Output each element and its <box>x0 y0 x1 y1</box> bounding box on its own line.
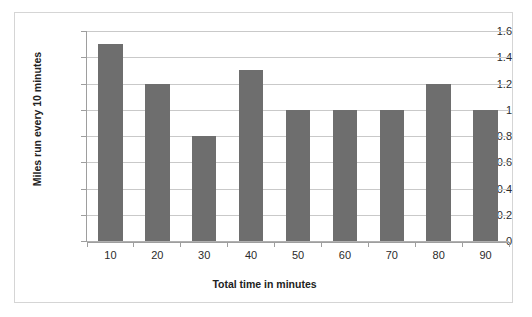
x-axis-tick-mark <box>368 242 369 247</box>
x-axis-tick-cell <box>87 242 134 247</box>
x-axis-tick-cell <box>321 242 368 247</box>
x-axis-tick-labels: 102030405060708090 <box>87 249 509 261</box>
plot-area <box>87 31 509 241</box>
bar-slot <box>368 31 415 241</box>
bar-slot <box>87 31 134 241</box>
bar-slot <box>462 31 509 241</box>
x-axis-tick-label: 70 <box>368 249 415 261</box>
x-axis-tick-cell <box>134 242 181 247</box>
x-axis-tick-label: 90 <box>462 249 509 261</box>
bar-slot <box>275 31 322 241</box>
x-axis-ticks <box>87 242 509 247</box>
x-axis-tick-mark <box>133 242 134 247</box>
x-axis-tick-cell <box>275 242 322 247</box>
x-axis-tick-mark <box>227 242 228 247</box>
x-axis-tick-mark <box>180 242 181 247</box>
x-axis-tick-mark <box>321 242 322 247</box>
x-axis-tick-label: 30 <box>181 249 228 261</box>
x-axis-tick-cell <box>368 242 415 247</box>
bar <box>239 70 263 241</box>
bar <box>380 110 404 241</box>
x-axis-tick-mark <box>274 242 275 247</box>
bar <box>333 110 357 241</box>
bar-slot <box>134 31 181 241</box>
bar <box>473 110 497 241</box>
x-axis-tick-label: 80 <box>415 249 462 261</box>
bar <box>426 84 450 242</box>
bar-slot <box>228 31 275 241</box>
x-axis-tick-cell <box>415 242 462 247</box>
x-axis-tick-mark <box>509 242 510 247</box>
x-axis-tick-cell <box>228 242 275 247</box>
x-axis-tick-label: 50 <box>275 249 322 261</box>
chart-frame: Miles run every 10 minutes 00.20.40.60.8… <box>14 12 513 303</box>
x-axis-tick-label: 10 <box>87 249 134 261</box>
x-axis-tick-mark <box>415 242 416 247</box>
x-axis-tick-label: 20 <box>134 249 181 261</box>
bar <box>98 44 122 241</box>
y-axis-title: Miles run every 10 minutes <box>31 19 43 219</box>
bar-slot <box>181 31 228 241</box>
x-axis-tick-mark <box>462 242 463 247</box>
bar <box>145 84 169 242</box>
x-axis-title: Total time in minutes <box>15 278 514 290</box>
x-axis-tick-cell <box>462 242 509 247</box>
x-axis-tick-cell <box>181 242 228 247</box>
bar-series <box>87 31 509 241</box>
x-axis-tick-label: 60 <box>321 249 368 261</box>
bar <box>192 136 216 241</box>
bar <box>286 110 310 241</box>
x-axis-tick-mark <box>87 242 88 247</box>
bar-slot <box>415 31 462 241</box>
x-axis-tick-label: 40 <box>228 249 275 261</box>
bar-slot <box>321 31 368 241</box>
